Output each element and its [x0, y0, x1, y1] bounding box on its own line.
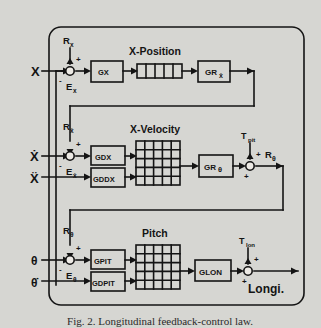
label-rx-sub: x	[70, 41, 74, 48]
label-xdot-input: Ẋ	[30, 149, 39, 164]
label-ex-sub: x	[73, 87, 77, 94]
label-block-gddx: GDDX	[93, 175, 115, 184]
label-block-gr-xdot-sub: ẋ	[219, 72, 223, 79]
label-rtheta-ref: R	[63, 225, 70, 236]
label-x-input: X	[31, 64, 40, 79]
figure-container: X R x + - E x GX X-Position GR ẋ Ẋ Ẍ …	[0, 0, 321, 328]
sum-node-x	[66, 67, 74, 75]
label-longi-output: Longi.	[248, 282, 284, 296]
label-theta-input: θ	[31, 254, 38, 268]
label-rtheta-sub: θ	[272, 155, 276, 162]
sign-plus-tlon: +	[254, 255, 259, 264]
label-thetadot-input: θ̇	[31, 276, 38, 290]
label-tlon-sub: lon	[246, 242, 255, 248]
sum-node-tlon	[244, 267, 252, 275]
label-tlon: T	[239, 236, 245, 246]
sum-node-theta	[66, 256, 74, 264]
label-xddot-input: Ẍ	[30, 171, 39, 186]
label-etheta: E	[66, 270, 72, 281]
sign-minus-x: -	[59, 76, 62, 85]
sign-plus-tpit: +	[256, 150, 261, 159]
label-ex: E	[66, 81, 72, 92]
sum-node-tpit	[246, 162, 254, 170]
label-etheta-sub: θ	[73, 276, 77, 283]
label-block-glon: GLON	[199, 268, 222, 277]
sign-minus-xdot: -	[59, 161, 62, 170]
figure-caption: Fig. 2. Longitudinal feedback-control la…	[67, 315, 253, 327]
label-x-position-title: X-Position	[129, 45, 181, 57]
label-block-gdx: GDX	[95, 153, 111, 162]
label-exdot: E	[66, 166, 72, 177]
sign-plus-theta: +	[76, 244, 81, 253]
label-block-gr-theta-sub: θ	[218, 165, 222, 174]
label-pitch-title: Pitch	[142, 227, 168, 239]
label-block-gr-xdot: GR	[205, 68, 217, 77]
label-rx: R	[63, 35, 70, 46]
label-tpit-sub: pit	[248, 137, 255, 143]
label-block-gx: GX	[98, 68, 109, 77]
sign-plus-tpit-2: +	[244, 172, 249, 181]
label-block-gpit: GPIT	[94, 257, 112, 266]
label-rtheta-ref-sub: θ	[70, 231, 74, 238]
sum-node-xdot	[66, 152, 74, 160]
sign-minus-theta: -	[59, 265, 62, 274]
sign-plus-tlon-2: +	[242, 277, 247, 286]
label-rtheta: R	[265, 149, 272, 160]
label-block-gr-theta: GR	[204, 163, 216, 172]
label-exdot-sub: ẋ	[73, 172, 77, 179]
label-tpit: T	[241, 131, 247, 141]
sign-plus-x: +	[76, 55, 81, 64]
label-x-velocity-title: X-Velocity	[130, 123, 180, 135]
label-rxdot: R	[63, 121, 70, 132]
sign-plus-xdot: +	[76, 140, 81, 149]
label-rxdot-sub: ẋ	[70, 127, 74, 134]
block-diagram: X R x + - E x GX X-Position GR ẋ Ẋ Ẍ …	[0, 0, 321, 328]
label-block-gdpit: GDPIT	[92, 279, 115, 288]
